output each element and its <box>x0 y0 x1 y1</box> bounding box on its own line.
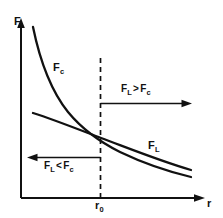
x-axis <box>21 194 205 202</box>
annotation-fl-less-fc: FL<Fc <box>44 161 74 171</box>
annotation-lt-left-subscript: L <box>50 165 55 174</box>
annotation-lt-right-subscript: c <box>69 165 73 174</box>
curve-label-fc-subscript: c <box>60 67 64 76</box>
less-than-symbol: < <box>55 160 63 171</box>
y-axis-label: F <box>14 16 21 27</box>
curve-label-fc: Fc <box>53 62 64 73</box>
annotation-gt-right-subscript: c <box>146 88 150 97</box>
x-axis-label: r <box>207 198 211 209</box>
right-region-arrow <box>101 100 193 107</box>
force-distance-chart: F r Fc FL FL>Fc FL<Fc r0 <box>0 0 223 218</box>
curve-fc <box>33 27 191 177</box>
x-tick-label-r0-subscript: 0 <box>99 205 103 214</box>
y-axis <box>17 18 25 198</box>
greater-than-symbol: > <box>132 83 140 94</box>
annotation-gt-left-subscript: L <box>127 88 132 97</box>
curve-label-fl: FL <box>148 140 160 151</box>
x-tick-label-r0: r0 <box>95 200 104 211</box>
annotation-fl-greater-fc: FL>Fc <box>121 84 151 94</box>
chart-canvas <box>0 0 223 218</box>
curve-label-fl-subscript: L <box>155 145 160 154</box>
